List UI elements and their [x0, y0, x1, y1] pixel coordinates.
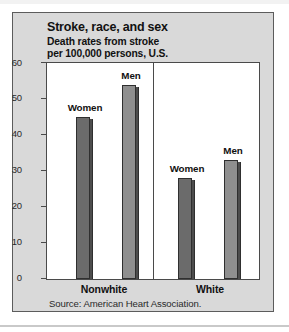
page-edge-top: [0, 0, 289, 4]
bar-face: [178, 178, 192, 279]
chart-figure: Stroke, race, and sex Death rates from s…: [12, 12, 274, 312]
bar-face: [76, 117, 90, 279]
plot-area: Women Men Women Men: [46, 62, 260, 280]
y-tick-label-60: 60: [0, 57, 22, 68]
group-divider: [153, 63, 154, 279]
bar-white-women: [178, 178, 195, 279]
group-label-nonwhite: Nonwhite: [69, 283, 139, 295]
page-edge-bottom: [0, 325, 289, 327]
y-tick-label-20: 20: [0, 200, 22, 211]
bar-label-white-women: Women: [158, 163, 216, 174]
y-tick-label-0: 0: [0, 272, 22, 283]
bar-side: [192, 180, 195, 279]
chart-title: Stroke, race, and sex: [47, 20, 168, 34]
bar-face: [224, 160, 238, 279]
bar-side: [90, 119, 93, 279]
bar-label-nonwhite-men: Men: [109, 70, 153, 81]
bar-label-nonwhite-women: Women: [56, 102, 114, 113]
bar-label-white-men: Men: [211, 145, 255, 156]
bar-face: [122, 85, 136, 279]
bar-nonwhite-men: [122, 85, 139, 279]
y-tick-label-40: 40: [0, 128, 22, 139]
chart-subtitle: Death rates from stroke per 100,000 pers…: [47, 36, 168, 59]
source-note: Source: American Heart Association.: [49, 298, 201, 309]
bar-white-men: [224, 160, 241, 279]
bar-side: [136, 87, 139, 279]
y-tick-label-30: 30: [0, 164, 22, 175]
group-label-white: White: [175, 283, 245, 295]
bar-nonwhite-women: [76, 117, 93, 279]
y-tick-label-50: 50: [0, 92, 22, 103]
bar-side: [238, 162, 241, 279]
y-tick-label-10: 10: [0, 236, 22, 247]
